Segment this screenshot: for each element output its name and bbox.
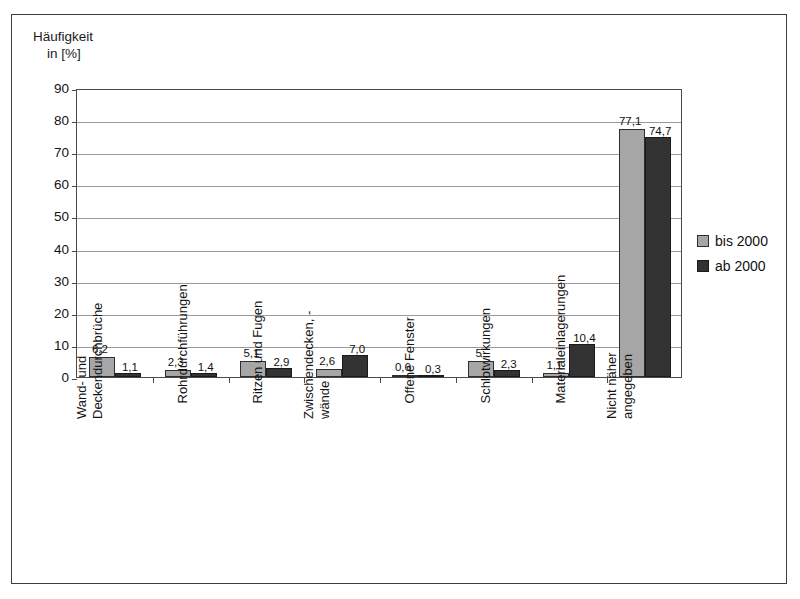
- legend-label: bis 2000: [715, 233, 768, 249]
- bar-bis-2000: [619, 129, 645, 377]
- bar-ab-2000: [266, 368, 292, 377]
- bar-ab-2000: [342, 355, 368, 377]
- x-axis-category-label: Nicht näherangegeben: [604, 353, 635, 419]
- gridline: [77, 315, 681, 316]
- legend-label: ab 2000: [715, 258, 766, 274]
- y-axis-tick-mark: [72, 251, 77, 252]
- x-axis-category-label-line1: Ritzen und Fugen: [250, 301, 265, 404]
- x-axis-category-label-line2: Deckendurchbrüche: [89, 303, 105, 419]
- x-axis-category-label-line1: Schlotwirkungen: [477, 308, 492, 403]
- y-axis-tick-mark: [72, 90, 77, 91]
- bar-ab-2000: [191, 373, 217, 377]
- bar-value-label: 0,3: [413, 363, 453, 375]
- gridline: [77, 283, 681, 284]
- x-axis-category-label: Rohrdurchführungen: [174, 284, 190, 403]
- figure-root: Häufigkeit in [%] 0102030405060708090 6,…: [0, 0, 800, 599]
- gridline: [77, 251, 681, 252]
- plot-area: 6,21,12,31,45,12,92,67,00,60,352,31,110,…: [76, 89, 682, 378]
- x-axis-category-label-line1: Materialeinlagerungen: [553, 275, 568, 404]
- bar-value-label: 74,7: [640, 125, 680, 137]
- y-axis-tick-label: 20: [29, 307, 69, 321]
- gridline: [77, 122, 681, 123]
- y-axis-title-line2: in [%]: [47, 45, 93, 62]
- x-axis-category-label-line1: Offene Fenster: [401, 317, 416, 403]
- y-axis-tick-label: 60: [29, 178, 69, 192]
- chart-legend: bis 2000ab 2000: [697, 228, 768, 278]
- y-axis-tick-label: 90: [29, 82, 69, 96]
- legend-swatch-icon: [697, 235, 709, 247]
- x-axis-tick-mark: [153, 377, 154, 383]
- y-axis-tick-mark: [72, 218, 77, 219]
- bar-ab-2000: [645, 137, 671, 377]
- x-axis-category-label: Wand- undDeckendurchbrüche: [74, 303, 105, 419]
- y-axis-tick-label: 40: [29, 243, 69, 257]
- x-axis-category-label: Materialeinlagerungen: [553, 275, 569, 404]
- x-axis-category-label-line1: Nicht näher: [604, 353, 619, 419]
- bar-value-label: 10,4: [564, 332, 604, 344]
- x-axis-category-label: Schlotwirkungen: [477, 308, 493, 403]
- x-axis-category-label: Offene Fenster: [401, 317, 417, 403]
- bar-value-label: 1,1: [110, 361, 150, 373]
- legend-swatch-icon: [697, 260, 709, 272]
- y-axis-tick-label: 50: [29, 210, 69, 224]
- x-axis-tick-mark: [229, 377, 230, 383]
- y-axis-title-line1: Häufigkeit: [33, 29, 93, 44]
- y-axis-tick-mark: [72, 122, 77, 123]
- bar-ab-2000: [494, 370, 520, 377]
- x-axis-category-label: Ritzen und Fugen: [250, 301, 266, 404]
- bar-ab-2000: [569, 344, 595, 377]
- bar-value-label: 1,4: [186, 361, 226, 373]
- y-axis-tick-mark: [72, 154, 77, 155]
- y-axis-tick-mark: [72, 186, 77, 187]
- y-axis-tick-label: 30: [29, 275, 69, 289]
- gridline: [77, 154, 681, 155]
- gridline: [77, 218, 681, 219]
- x-axis-category-label: Zwischendecken, -wände: [301, 311, 332, 419]
- bar-ab-2000: [115, 373, 141, 377]
- x-axis-category-label-line1: Zwischendecken, -: [301, 311, 316, 419]
- x-axis-tick-mark: [532, 377, 533, 383]
- x-axis-tick-mark: [380, 377, 381, 383]
- y-axis-tick-label: 0: [29, 371, 69, 385]
- y-axis-tick-labels: 0102030405060708090: [27, 89, 69, 378]
- bar-value-label: 7,0: [337, 343, 377, 355]
- x-axis-category-label-line2: wände: [317, 311, 333, 419]
- x-axis-category-label-line2: angegeben: [620, 353, 636, 419]
- x-axis-tick-mark: [456, 377, 457, 383]
- legend-item: ab 2000: [697, 253, 768, 278]
- x-axis-category-label-line1: Rohrdurchführungen: [174, 284, 189, 403]
- y-axis-tick-label: 10: [29, 339, 69, 353]
- legend-item: bis 2000: [697, 228, 768, 253]
- y-axis-tick-label: 70: [29, 146, 69, 160]
- x-axis-category-label-line1: Wand- und: [74, 356, 89, 419]
- y-axis-tick-mark: [72, 283, 77, 284]
- gridline: [77, 186, 681, 187]
- bar-value-label: 2,3: [489, 358, 529, 370]
- y-axis-title: Häufigkeit in [%]: [33, 28, 93, 62]
- bar-value-label: 2,9: [261, 356, 301, 368]
- y-axis-tick-label: 80: [29, 114, 69, 128]
- bar-ab-2000: [418, 375, 444, 377]
